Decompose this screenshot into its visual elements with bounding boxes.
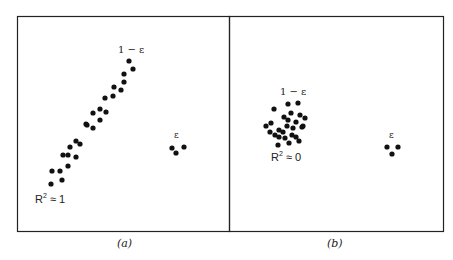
panel-b-dots [263, 100, 400, 156]
fit-label-r: R [271, 151, 279, 163]
data-point [268, 120, 273, 125]
data-point [286, 140, 291, 145]
fit-label-r: R [35, 193, 43, 205]
data-point [181, 144, 186, 149]
data-point [267, 129, 272, 134]
data-point [173, 150, 178, 155]
data-point [280, 129, 285, 134]
data-point [90, 110, 95, 115]
data-point [130, 66, 135, 71]
data-point [73, 138, 78, 143]
data-point [49, 168, 54, 173]
fit-label-value: ≈ 1 [47, 193, 65, 205]
data-point [97, 106, 102, 111]
data-point [285, 117, 290, 122]
data-point [83, 121, 88, 126]
panel-b-outlier-label: ε [389, 130, 394, 140]
data-point [299, 124, 304, 129]
data-point [121, 79, 126, 84]
data-point [59, 177, 64, 182]
data-point [118, 87, 123, 92]
data-point [73, 154, 78, 159]
data-point [103, 109, 108, 114]
panel-a-fit-label: R2 ≈ 1 [35, 192, 65, 205]
data-point [395, 144, 400, 149]
panel-a-outlier-label: ε [174, 130, 179, 140]
data-point [121, 71, 126, 76]
fit-label-value: ≈ 0 [283, 151, 301, 163]
data-point [282, 135, 287, 140]
data-point [126, 58, 131, 63]
data-point [48, 181, 53, 186]
data-point [67, 144, 72, 149]
data-point [97, 117, 102, 122]
data-point [288, 110, 293, 115]
data-point [297, 112, 302, 117]
data-point [102, 95, 107, 100]
data-point [296, 138, 301, 143]
data-point [284, 123, 289, 128]
panel-b-fit-label: R2 ≈ 0 [271, 150, 301, 163]
data-point [275, 142, 280, 147]
data-point [57, 168, 62, 173]
data-point [293, 119, 298, 124]
panel-a-dots [48, 58, 186, 186]
panel-b-main-cluster-label: 1 − ε [280, 86, 306, 97]
data-point [295, 100, 300, 105]
data-point [389, 151, 394, 156]
data-point [169, 145, 174, 150]
data-point [111, 84, 116, 89]
data-point [263, 123, 268, 128]
panel-a-main-cluster-label: 1 − ε [118, 44, 144, 55]
data-point [290, 125, 295, 130]
data-point [271, 106, 276, 111]
data-point [384, 144, 389, 149]
panel-b-caption: (b) [327, 237, 343, 250]
data-point [285, 101, 290, 106]
data-point [60, 152, 65, 157]
data-point [65, 152, 70, 157]
figure-canvas [0, 0, 453, 260]
data-point [302, 115, 307, 120]
data-point [272, 132, 277, 137]
panel-b-frame [230, 17, 444, 232]
panel-a-caption: (a) [117, 237, 132, 250]
data-point [65, 163, 70, 168]
data-point [90, 125, 95, 130]
data-point [110, 93, 115, 98]
